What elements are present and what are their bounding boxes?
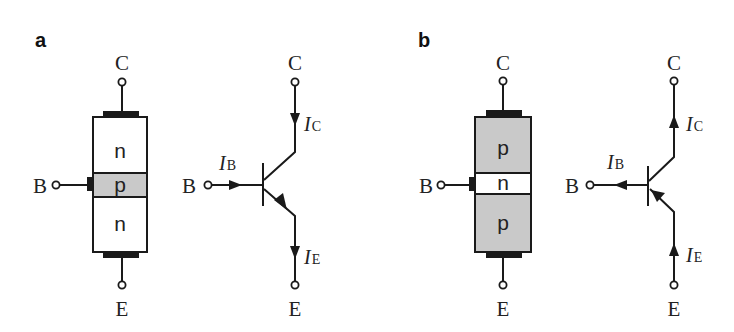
symbol-emitter-terminal bbox=[291, 281, 298, 288]
transistor-figure: a C n p n B E C bbox=[0, 0, 734, 332]
emitter-contact bbox=[486, 251, 522, 258]
npn-symbol: C IC B IB IE E bbox=[182, 51, 321, 321]
panel-b: b C p n p B E C bbox=[418, 29, 703, 321]
collector-label: C bbox=[496, 51, 510, 75]
npn-structure: C n p n B E bbox=[33, 51, 147, 321]
emitter-wire bbox=[650, 189, 674, 281]
collector-label: C bbox=[115, 51, 129, 75]
current-ib-label: IB bbox=[218, 152, 236, 174]
current-ic-label: IC bbox=[303, 113, 321, 135]
ie-arrow-icon bbox=[669, 243, 679, 256]
region-label-base: p bbox=[114, 173, 126, 196]
collector-wire bbox=[649, 85, 674, 181]
current-ie-label: IE bbox=[303, 246, 320, 268]
emitter-terminal bbox=[118, 281, 125, 288]
emitter-label: E bbox=[497, 297, 510, 321]
base-label: B bbox=[419, 174, 433, 198]
collector-contact bbox=[486, 110, 522, 117]
region-label-emitter: p bbox=[497, 211, 509, 234]
region-label-emitter: n bbox=[114, 212, 126, 235]
symbol-base-label: B bbox=[182, 174, 196, 198]
emitter-label: E bbox=[116, 297, 129, 321]
symbol-collector-label: C bbox=[288, 51, 302, 75]
ib-arrow-icon bbox=[229, 180, 242, 190]
region-label-collector: p bbox=[497, 136, 509, 159]
symbol-emitter-label: E bbox=[668, 297, 681, 321]
ie-arrow-icon bbox=[290, 246, 300, 259]
symbol-base-terminal bbox=[204, 181, 211, 188]
collector-wire bbox=[264, 86, 295, 180]
base-terminal bbox=[52, 181, 59, 188]
base-terminal bbox=[437, 181, 444, 188]
collector-terminal bbox=[499, 77, 506, 84]
base-contact bbox=[87, 177, 93, 191]
current-ie-label: IE bbox=[685, 244, 702, 266]
symbol-collector-label: C bbox=[667, 51, 681, 75]
base-label: B bbox=[33, 174, 47, 198]
pnp-structure: C p n p B E bbox=[419, 51, 531, 321]
panel-a: a C n p n B E C bbox=[33, 29, 321, 321]
region-label-collector: n bbox=[114, 139, 126, 162]
symbol-base-terminal bbox=[586, 181, 593, 188]
symbol-collector-terminal bbox=[291, 78, 298, 85]
emitter-arrow-icon bbox=[274, 193, 287, 210]
base-contact bbox=[469, 177, 475, 191]
emitter-contact bbox=[103, 251, 139, 258]
current-ib-label: IB bbox=[606, 151, 624, 173]
ic-arrow-icon bbox=[669, 115, 679, 128]
ic-arrow-icon bbox=[290, 113, 300, 126]
symbol-emitter-label: E bbox=[289, 297, 302, 321]
current-ic-label: IC bbox=[685, 113, 703, 135]
emitter-terminal bbox=[499, 281, 506, 288]
symbol-base-label: B bbox=[565, 174, 579, 198]
region-label-base: n bbox=[497, 171, 509, 194]
panel-label-b: b bbox=[418, 29, 430, 51]
collector-terminal bbox=[118, 78, 125, 85]
panel-label-a: a bbox=[35, 29, 47, 51]
symbol-collector-terminal bbox=[670, 77, 677, 84]
ib-arrow-icon bbox=[614, 180, 627, 190]
symbol-emitter-terminal bbox=[670, 281, 677, 288]
pnp-symbol: C IC B IB IE E bbox=[565, 51, 703, 321]
